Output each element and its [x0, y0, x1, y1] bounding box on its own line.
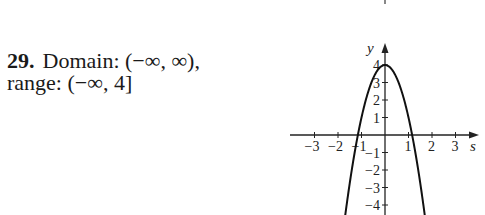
x-tick-label: 3 [452, 139, 459, 154]
x-axis-label: s [470, 138, 476, 154]
y-tick-label: 1 [373, 111, 380, 126]
x-tick-label: −2 [328, 139, 343, 154]
parabola-graph: −3−2−1123 −4−3−2−11234 s y [0, 0, 485, 215]
x-tick-label: −3 [305, 139, 320, 154]
y-tick-label: 2 [373, 93, 380, 108]
y-tick-label: −2 [365, 163, 380, 178]
y-axis-arrow-icon [382, 43, 389, 53]
y-axis-label: y [365, 40, 374, 56]
x-tick-label: 2 [428, 139, 435, 154]
y-axis [382, 43, 389, 215]
y-tick-label: −4 [365, 198, 380, 213]
y-tick-label: −3 [365, 181, 380, 196]
y-tick-label: −1 [365, 146, 380, 161]
x-tick-label: 1 [405, 139, 412, 154]
